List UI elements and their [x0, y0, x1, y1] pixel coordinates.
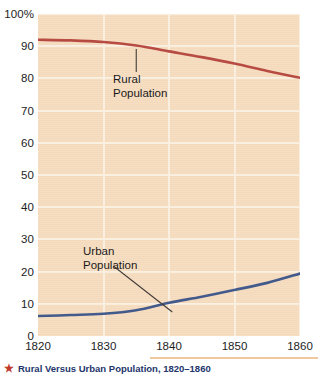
y-tick-label: 70: [0, 105, 34, 117]
y-tick-label: 100%: [0, 8, 34, 20]
x-tick-label: 1820: [25, 340, 51, 352]
chart-caption: ★ Rural Versus Urban Population, 1820–18…: [4, 363, 318, 374]
caption-text: Rural Versus Urban Population, 1820–1860: [18, 363, 211, 374]
x-tick-label: 1830: [91, 340, 117, 352]
y-tick-label: 90: [0, 40, 34, 52]
urban-population-label: Urban Population: [83, 245, 137, 272]
x-tick-label: 1860: [287, 340, 313, 352]
caption-rule: [150, 357, 318, 359]
star-icon: ★: [4, 364, 14, 373]
y-tick-label: 20: [0, 266, 34, 278]
y-tick-label: 30: [0, 233, 34, 245]
y-tick-label: 50: [0, 169, 34, 181]
annotation-leader-lines: [38, 14, 300, 336]
chart-figure: 0102030405060708090100% 1820183018401850…: [0, 0, 318, 376]
y-tick-label: 10: [0, 298, 34, 310]
y-tick-label: 80: [0, 72, 34, 84]
y-tick-label: 60: [0, 137, 34, 149]
plot-area: [38, 14, 300, 336]
x-tick-label: 1840: [156, 340, 182, 352]
y-axis: 0102030405060708090100%: [0, 14, 34, 336]
urban-leader-line: [113, 266, 172, 312]
y-tick-label: 40: [0, 201, 34, 213]
rural-population-label: Rural Population: [113, 73, 167, 100]
x-tick-label: 1850: [222, 340, 248, 352]
